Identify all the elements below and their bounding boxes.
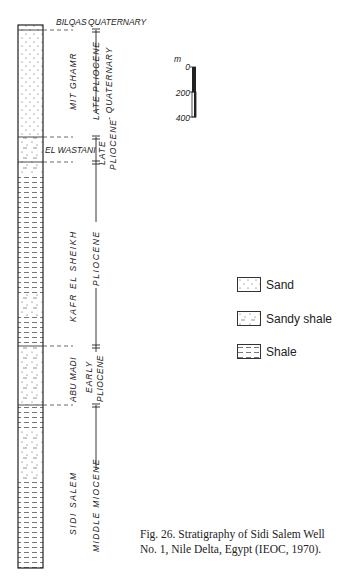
caption-line-2: No. 1, Nile Delta, Egypt (IEOC, 1970). (140, 542, 355, 557)
label-kafr-el-sheikh: KAFR EL SHEIKH (68, 230, 78, 322)
stratigraphic-diagram: BILQAS QUATERNARY EL WASTANI MIT GHAMR L… (0, 0, 357, 577)
label-early: EARLY (84, 361, 94, 393)
legend-item-shale: Shale (237, 344, 297, 359)
legend-label: Sandy shale (266, 312, 332, 326)
svg-text:0: 0 (185, 62, 190, 72)
label-pliocene-1: PLIOCENE (108, 119, 118, 170)
label-sidi-salem: SIDI SALEM (68, 471, 78, 535)
legend-item-sand: Sand (237, 277, 294, 292)
legend-label: Sand (266, 278, 294, 292)
label-bilqas: BILQAS (56, 17, 87, 27)
label-late: LATE (97, 140, 107, 165)
scale-bar: m 0 200 400 (174, 54, 196, 123)
label-middle-miocene: MIDDLE MIOCENE (91, 458, 101, 552)
svg-text:200: 200 (175, 88, 190, 98)
figure-caption: Fig. 26. Stratigraphy of Sidi Salem Well… (140, 527, 355, 557)
label-pliocene-3: PLIOCENE (95, 355, 105, 402)
label-abu-madi: ABU MADI (68, 357, 78, 403)
svg-text:400: 400 (176, 113, 190, 123)
svg-text:m: m (174, 54, 181, 64)
label-el-wastani: EL WASTANI (45, 145, 96, 155)
label-late-pliocene: LATE PLIOCENE (91, 41, 101, 120)
label-quaternary: QUATERNARY (88, 17, 147, 27)
caption-line-1: Fig. 26. Stratigraphy of Sidi Salem Well (140, 527, 355, 542)
label-pliocene-2: PLIOCENE (91, 230, 101, 286)
legend-label: Shale (266, 345, 297, 359)
legend-item-sandy-shale: Sandy shale (237, 311, 332, 326)
label-quaternary-2: - QUATERNARY (104, 47, 114, 120)
shale-swatch-icon (237, 344, 261, 359)
sand-swatch-icon (237, 277, 261, 292)
label-mit-ghamr: MIT GHAMR (68, 52, 78, 110)
lithology-column (18, 25, 43, 568)
sandy-shale-swatch-icon (237, 311, 261, 326)
